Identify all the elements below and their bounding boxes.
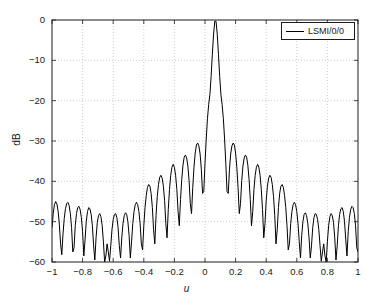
figure-container: dB u −1−0.8−0.6−0.4−0.200.20.40.60.81 0−… (0, 0, 373, 303)
x-tick-label: −0.4 (127, 266, 161, 277)
legend-line-swatch (286, 31, 304, 32)
x-tick-label: 1 (341, 266, 373, 277)
y-tick-label: −30 (11, 135, 45, 147)
x-tick-label: 0.4 (249, 266, 283, 277)
x-tick-label: 0.8 (310, 266, 344, 277)
legend: LSMI/0/0 (281, 22, 355, 40)
x-tick-label: 0.6 (280, 266, 314, 277)
legend-entry-label: LSMI/0/0 (308, 26, 344, 36)
x-tick-label: 0.2 (219, 266, 253, 277)
y-tick-label: −10 (11, 54, 45, 66)
x-tick-label: −0.8 (66, 266, 100, 277)
x-axis-label: u (0, 283, 373, 294)
beampattern-chart (0, 0, 373, 303)
x-tick-label: −0.2 (157, 266, 191, 277)
x-tick-label: 0 (188, 266, 222, 277)
y-tick-label: −50 (11, 216, 45, 228)
x-tick-label: −0.6 (96, 266, 130, 277)
y-tick-label: −60 (11, 256, 45, 268)
y-tick-label: 0 (11, 14, 45, 26)
y-tick-label: −20 (11, 95, 45, 107)
y-tick-label: −40 (11, 175, 45, 187)
